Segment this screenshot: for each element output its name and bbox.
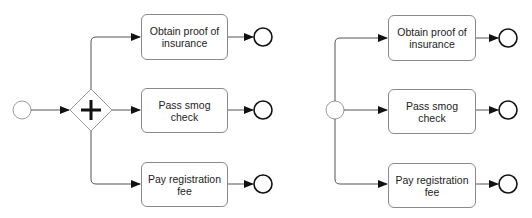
task-pay-registration-fee[interactable]: Pay registration fee xyxy=(388,163,476,208)
sequence-flow xyxy=(91,37,140,89)
task-label: Pay registration fee xyxy=(392,174,472,198)
start-event-icon[interactable] xyxy=(13,101,31,119)
end-event-icon[interactable] xyxy=(254,175,272,193)
end-event-icon[interactable] xyxy=(499,175,517,193)
task-pass-smog-check[interactable]: Pass smog check xyxy=(388,89,476,134)
task-pay-registration-fee[interactable]: Pay registration fee xyxy=(141,162,228,207)
task-label: Pay registration fee xyxy=(145,173,224,197)
task-label: Obtain proof of insurance xyxy=(392,26,472,50)
task-pass-smog-check[interactable]: Pass smog check xyxy=(141,88,228,133)
start-event-icon[interactable] xyxy=(326,101,344,119)
sequence-flow xyxy=(335,119,387,184)
task-obtain-proof-of-insurance[interactable]: Obtain proof of insurance xyxy=(388,15,476,61)
end-event-icon[interactable] xyxy=(254,28,272,46)
end-event-icon[interactable] xyxy=(254,101,272,119)
task-label: Pass smog check xyxy=(145,99,224,123)
end-event-icon[interactable] xyxy=(499,29,517,47)
end-event-icon[interactable] xyxy=(499,101,517,119)
task-label: Pass smog check xyxy=(392,100,472,124)
task-label: Obtain proof of insurance xyxy=(145,25,224,49)
sequence-flow xyxy=(91,131,140,184)
sequence-flow xyxy=(335,38,387,101)
task-obtain-proof-of-insurance[interactable]: Obtain proof of insurance xyxy=(141,14,228,60)
